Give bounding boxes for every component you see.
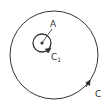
label-c: C — [95, 89, 101, 99]
label-a: A — [50, 19, 57, 29]
diagram-canvas: A C1 C — [0, 0, 106, 105]
label-c1: C1 — [51, 52, 61, 63]
